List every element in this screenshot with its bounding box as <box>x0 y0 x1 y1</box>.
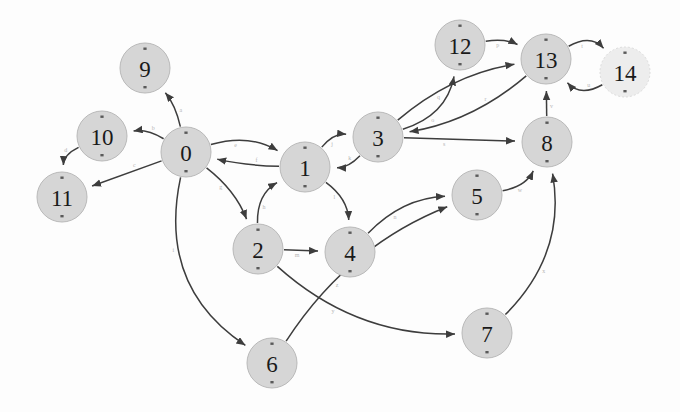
node-tick-top-12 <box>458 25 461 27</box>
graph-node-14[interactable]: 14 <box>600 47 650 97</box>
edge-label-1-0: f <box>255 157 257 163</box>
graph-diagram: abcdefghijklmnopqrstuvwxyz 0123456789101… <box>0 0 680 412</box>
node-tick-top-2 <box>256 229 259 231</box>
edge-3-to-12 <box>403 76 454 129</box>
graph-node-3[interactable]: 3 <box>353 112 403 162</box>
node-label-6: 6 <box>266 352 278 377</box>
edge-13-to-3 <box>410 76 527 132</box>
edge-label-0-2: g <box>219 184 222 190</box>
edge-label-2-1: h <box>262 204 265 210</box>
node-tick-bottom-14 <box>623 90 626 92</box>
graph-node-7[interactable]: 7 <box>462 308 512 358</box>
edge-label-3-8: s <box>443 141 446 147</box>
edge-label-7-8: x <box>542 268 545 274</box>
edge-label-4-5: n <box>394 214 397 220</box>
node-label-11: 11 <box>51 186 73 211</box>
edge-label-1-3: j <box>330 141 333 147</box>
edge-3-to-8 <box>404 138 515 141</box>
edge-label-0-9: a <box>180 107 183 113</box>
edge-0-to-2 <box>207 168 247 219</box>
node-label-2: 2 <box>252 238 264 263</box>
edge-label-13-3: r <box>485 96 487 102</box>
edge-label-0-11: c <box>133 162 136 168</box>
edge-13-to-14 <box>569 41 604 49</box>
node-layer: 01234567891011121314 <box>37 20 650 388</box>
node-label-14: 14 <box>614 61 638 86</box>
edge-label-10-11: d <box>64 147 67 153</box>
edge-0-to-1 <box>211 140 278 150</box>
node-tick-bottom-1 <box>303 185 306 187</box>
node-tick-top-11 <box>60 177 63 179</box>
graph-node-0[interactable]: 0 <box>161 127 211 177</box>
edge-4-to-5 <box>368 196 445 233</box>
node-tick-bottom-2 <box>256 267 259 269</box>
node-tick-bottom-0 <box>184 170 187 172</box>
node-tick-bottom-11 <box>60 215 63 217</box>
edge-1-to-4 <box>326 182 349 220</box>
node-tick-bottom-10 <box>100 154 103 156</box>
node-label-3: 3 <box>372 126 384 151</box>
edge-label-2-7: y <box>332 308 335 314</box>
graph-node-12[interactable]: 12 <box>435 20 485 70</box>
edge-label-0-6: i <box>172 247 174 253</box>
node-tick-top-0 <box>184 132 187 134</box>
edge-0-to-10 <box>134 131 164 139</box>
node-label-4: 4 <box>344 241 356 266</box>
edge-label-2-4: m <box>295 252 300 258</box>
edge-label-3-1: k <box>348 155 351 161</box>
edge-2-to-1 <box>257 183 277 223</box>
graph-node-1[interactable]: 1 <box>280 142 330 192</box>
graph-node-11[interactable]: 11 <box>37 172 87 222</box>
node-tick-bottom-13 <box>544 77 547 79</box>
edge-label-1-4: l <box>333 194 335 200</box>
node-tick-bottom-9 <box>143 86 146 88</box>
edge-label-13-14: t <box>581 43 583 49</box>
graph-node-6[interactable]: 6 <box>247 338 297 388</box>
node-tick-bottom-4 <box>348 270 351 272</box>
edge-1-to-0 <box>217 159 279 166</box>
edge-label-3-12: o <box>431 117 434 123</box>
node-tick-top-1 <box>303 147 306 149</box>
edge-0-to-11 <box>92 161 161 186</box>
node-tick-top-5 <box>475 175 478 177</box>
node-tick-top-3 <box>376 117 379 119</box>
node-label-0: 0 <box>180 141 192 166</box>
edge-2-to-7 <box>277 266 455 334</box>
edge-0-to-9 <box>165 93 180 127</box>
node-tick-top-10 <box>100 116 103 118</box>
edge-label-3-13: q <box>437 94 440 100</box>
node-label-8: 8 <box>541 131 553 156</box>
graph-node-8[interactable]: 8 <box>522 117 572 167</box>
graph-node-13[interactable]: 13 <box>521 34 571 84</box>
node-tick-top-4 <box>348 232 351 234</box>
node-label-10: 10 <box>91 125 114 150</box>
edge-7-to-8 <box>505 174 555 315</box>
graph-canvas: abcdefghijklmnopqrstuvwxyz 0123456789101… <box>0 0 680 412</box>
node-tick-top-7 <box>485 313 488 315</box>
node-tick-bottom-6 <box>270 381 273 383</box>
node-label-9: 9 <box>139 57 151 82</box>
edge-0-to-6 <box>176 177 246 345</box>
node-label-5: 5 <box>471 184 483 209</box>
edge-label-12-13: p <box>496 42 499 48</box>
edge-3-to-13 <box>398 64 515 120</box>
graph-node-2[interactable]: 2 <box>233 224 283 274</box>
node-tick-bottom-12 <box>458 63 461 65</box>
node-tick-bottom-8 <box>545 160 548 162</box>
node-label-1: 1 <box>299 156 311 181</box>
edge-2-to-4 <box>284 250 318 251</box>
graph-node-4[interactable]: 4 <box>325 227 375 277</box>
node-tick-top-9 <box>143 48 146 50</box>
graph-node-5[interactable]: 5 <box>452 170 502 220</box>
node-tick-top-8 <box>545 122 548 124</box>
graph-node-9[interactable]: 9 <box>120 43 170 93</box>
edge-label-8-13: v <box>550 103 553 109</box>
graph-node-10[interactable]: 10 <box>77 111 127 161</box>
node-tick-bottom-5 <box>475 213 478 215</box>
edge-14-to-13 <box>567 83 602 91</box>
edge-label-0-1: e <box>234 142 237 148</box>
edge-label-0-10: b <box>152 125 155 131</box>
node-label-13: 13 <box>535 48 558 73</box>
edge-label-5-8: w <box>518 187 523 193</box>
node-tick-top-6 <box>270 343 273 345</box>
